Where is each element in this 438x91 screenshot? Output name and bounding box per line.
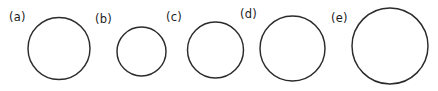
circle-b [117, 27, 166, 76]
panel-label-d: (d) [240, 9, 257, 21]
circle-e [352, 8, 428, 84]
circle-d [260, 16, 325, 81]
circle-a [28, 18, 90, 80]
panel-label-c: (c) [166, 12, 182, 24]
panel-label-b: (b) [95, 14, 112, 26]
panel-label-a: (a) [9, 12, 26, 24]
circle-c [188, 22, 244, 78]
panel-label-e: (e) [331, 13, 348, 25]
circles-svg [0, 0, 438, 91]
figure-panel: (a) (b) (c) (d) (e) [0, 0, 438, 91]
